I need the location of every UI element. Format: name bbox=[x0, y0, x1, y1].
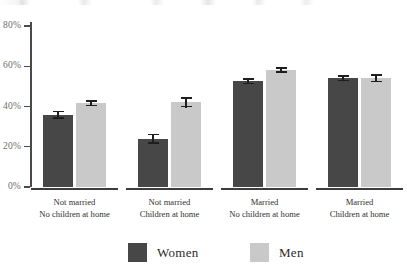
group-label-3: MarriedNo children at home bbox=[210, 197, 320, 220]
legend-label: Women bbox=[157, 245, 199, 261]
bar-women-group-3 bbox=[233, 81, 263, 187]
group-label-line: Not married bbox=[20, 197, 130, 209]
group-label-line: Married bbox=[305, 197, 407, 209]
y-axis-tick-label: 80% bbox=[0, 20, 21, 30]
group-label-4: MarriedChildren at home bbox=[305, 197, 407, 220]
bar-women-group-1 bbox=[43, 115, 73, 187]
error-bar-cap-upper bbox=[181, 97, 192, 99]
error-bar-cap-lower bbox=[243, 83, 254, 85]
error-bar-men-group-2 bbox=[171, 97, 201, 107]
error-bar-cap-lower bbox=[53, 117, 64, 119]
error-bar-men-group-1 bbox=[76, 100, 106, 106]
legend-item-men[interactable]: Men bbox=[250, 243, 304, 262]
y-axis-tick bbox=[24, 186, 30, 187]
error-bar-cap-lower bbox=[86, 105, 97, 107]
legend-swatch-men bbox=[250, 243, 269, 262]
error-bar-cap-upper bbox=[338, 75, 349, 77]
y-axis-tick-label: 60% bbox=[0, 60, 21, 70]
error-bar-cap-lower bbox=[338, 80, 349, 82]
error-bar-cap-upper bbox=[276, 67, 287, 69]
group-label-line: Children at home bbox=[305, 209, 407, 221]
y-axis-tick-label: 20% bbox=[0, 141, 21, 151]
group-baseline-3 bbox=[221, 188, 308, 190]
bar-men-group-1 bbox=[76, 103, 106, 187]
group-baseline-4 bbox=[316, 188, 403, 190]
group-baseline-1 bbox=[31, 188, 118, 190]
legend-swatch-women bbox=[128, 243, 147, 262]
y-axis-tick bbox=[24, 106, 30, 107]
error-bar-women-group-4 bbox=[328, 75, 358, 81]
group-label-line: Children at home bbox=[115, 209, 225, 221]
error-bar-cap-upper bbox=[53, 111, 64, 113]
bar-women-group-4 bbox=[328, 78, 358, 187]
error-bar-cap-upper bbox=[148, 134, 159, 136]
y-axis-tick-label: 0% bbox=[0, 181, 21, 191]
scan-artifact-strip bbox=[0, 0, 401, 5]
error-bar-women-group-3 bbox=[233, 78, 263, 84]
bar-women-group-2 bbox=[138, 139, 168, 187]
error-bar-cap-upper bbox=[371, 74, 382, 76]
group-label-1: Not marriedNo children at home bbox=[20, 197, 130, 220]
bar-men-group-2 bbox=[171, 102, 201, 187]
bar-men-group-3 bbox=[266, 70, 296, 187]
y-axis-tick-label: 40% bbox=[0, 101, 21, 111]
y-axis-line bbox=[30, 22, 32, 187]
error-bar-women-group-1 bbox=[43, 111, 73, 119]
error-bar-men-group-3 bbox=[266, 67, 296, 73]
group-label-2: Not marriedChildren at home bbox=[115, 197, 225, 220]
legend-label: Men bbox=[279, 245, 304, 261]
y-axis-tick bbox=[24, 25, 30, 26]
group-label-line: No children at home bbox=[210, 209, 320, 221]
error-bar-cap-lower bbox=[148, 142, 159, 144]
y-axis-tick bbox=[24, 146, 30, 147]
error-bar-cap-upper bbox=[86, 100, 97, 102]
error-bar-cap-upper bbox=[243, 78, 254, 80]
legend-item-women[interactable]: Women bbox=[128, 243, 199, 262]
y-axis-tick bbox=[24, 66, 30, 67]
bar-men-group-4 bbox=[361, 78, 391, 187]
error-bar-cap-lower bbox=[276, 71, 287, 73]
group-label-line: Not married bbox=[115, 197, 225, 209]
error-bar-women-group-2 bbox=[138, 134, 168, 144]
error-bar-cap-lower bbox=[181, 106, 192, 108]
error-bar-cap-lower bbox=[371, 81, 382, 83]
group-label-line: No children at home bbox=[20, 209, 130, 221]
group-baseline-2 bbox=[126, 188, 213, 190]
error-bar-men-group-4 bbox=[361, 74, 391, 82]
group-label-line: Married bbox=[210, 197, 320, 209]
